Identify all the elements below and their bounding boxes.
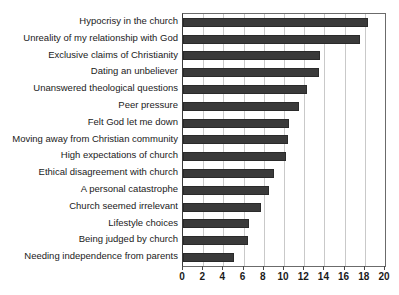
bar — [183, 219, 249, 228]
bar — [183, 203, 261, 212]
category-label: Ethical disagreement with church — [39, 164, 178, 181]
bar-row — [183, 232, 248, 249]
category-label: Unanswered theological questions — [33, 80, 178, 97]
bar-row — [183, 216, 249, 233]
bar — [183, 51, 320, 60]
x-tick — [344, 266, 345, 270]
category-label: Exclusive claims of Christianity — [48, 47, 178, 64]
cropped-title-strip — [0, 0, 399, 12]
x-tick-label: 4 — [220, 271, 226, 282]
x-tick — [243, 266, 244, 270]
x-tick-label: 0 — [179, 271, 185, 282]
bar — [183, 68, 319, 77]
bar-chart: Hypocrisy in the churchUnreality of my r… — [0, 0, 399, 295]
category-label: Felt God let me down — [88, 114, 178, 131]
bar — [183, 236, 248, 245]
bar-row — [183, 64, 319, 81]
x-tick — [384, 266, 385, 270]
bar-row — [183, 48, 320, 65]
category-label: Peer pressure — [118, 97, 178, 114]
bar — [183, 152, 286, 161]
x-tick — [222, 266, 223, 270]
bar-row — [183, 31, 360, 48]
x-tick — [182, 266, 183, 270]
bar-row — [183, 132, 288, 149]
category-label: Church seemed irrelevant — [69, 198, 178, 215]
x-axis: 02468101214161820 — [182, 266, 385, 292]
category-label: Needing independence from parents — [24, 248, 178, 265]
bar — [183, 85, 307, 94]
plot-area — [182, 13, 386, 267]
x-tick-label: 14 — [318, 271, 329, 282]
bar-row — [183, 115, 289, 132]
category-label: Lifestyle choices — [108, 215, 178, 232]
x-tick — [263, 266, 264, 270]
x-tick-label: 18 — [358, 271, 369, 282]
bar — [183, 102, 299, 111]
category-label: Being judged by church — [79, 231, 178, 248]
x-tick — [323, 266, 324, 270]
x-tick-label: 8 — [260, 271, 266, 282]
bar-row — [183, 81, 307, 98]
x-tick-label: 16 — [338, 271, 349, 282]
bar-row — [183, 165, 274, 182]
x-tick — [202, 266, 203, 270]
category-label: Dating an unbeliever — [91, 63, 178, 80]
bar-row — [183, 14, 368, 31]
bar — [183, 253, 234, 262]
bar-row — [183, 182, 269, 199]
category-label: Moving away from Christian community — [12, 131, 178, 148]
category-axis-labels: Hypocrisy in the churchUnreality of my r… — [0, 13, 178, 265]
category-label: A personal catastrophe — [81, 181, 178, 198]
x-tick-label: 6 — [240, 271, 246, 282]
x-tick-label: 20 — [378, 271, 389, 282]
x-tick — [283, 266, 284, 270]
bar — [183, 18, 368, 27]
bar-row — [183, 199, 261, 216]
bar-row — [183, 98, 299, 115]
category-label: High expectations of church — [61, 147, 178, 164]
x-tick-label: 10 — [277, 271, 288, 282]
bar — [183, 35, 360, 44]
bar — [183, 135, 288, 144]
bar-row — [183, 249, 234, 266]
x-tick-label: 2 — [199, 271, 205, 282]
x-tick-label: 12 — [298, 271, 309, 282]
bar-row — [183, 148, 286, 165]
bar — [183, 119, 289, 128]
bar — [183, 186, 269, 195]
category-label: Hypocrisy in the church — [79, 13, 178, 30]
category-label: Unreality of my relationship with God — [23, 30, 178, 47]
x-tick — [303, 266, 304, 270]
bar-series — [183, 14, 385, 266]
x-tick — [364, 266, 365, 270]
bar — [183, 169, 274, 178]
